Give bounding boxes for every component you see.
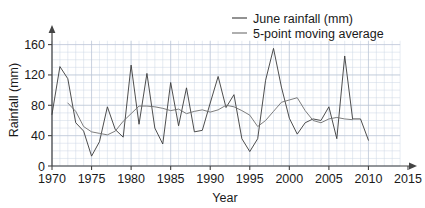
y-tick-label: 160 bbox=[24, 38, 45, 52]
x-tick-label: 2015 bbox=[394, 172, 422, 186]
legend-label: June rainfall (mm) bbox=[253, 12, 353, 26]
x-tick-label: 2010 bbox=[355, 172, 383, 186]
x-axis-title: Year bbox=[212, 191, 237, 205]
y-axis-tick-labels: 04080120160 bbox=[24, 38, 45, 173]
x-axis-arrowhead bbox=[409, 163, 417, 170]
legend-label: 5-point moving average bbox=[253, 27, 384, 41]
x-tick-label: 2000 bbox=[275, 172, 303, 186]
x-tick-label: 1985 bbox=[157, 172, 185, 186]
x-tick-label: 1975 bbox=[78, 172, 106, 186]
y-axis-title: Rainfall (mm) bbox=[7, 63, 21, 137]
x-tick-label: 1980 bbox=[117, 172, 145, 186]
minor-gridlines bbox=[52, 41, 400, 166]
x-tick-label: 1970 bbox=[38, 172, 66, 186]
x-axis-tick-labels: 1970197519801985199019952000200520102015 bbox=[38, 172, 422, 186]
axis-tick-marks bbox=[48, 45, 408, 170]
x-tick-label: 1990 bbox=[196, 172, 224, 186]
x-tick-label: 2005 bbox=[315, 172, 343, 186]
y-tick-label: 80 bbox=[31, 99, 45, 113]
rainfall-chart: 04080120160 1970197519801985199019952000… bbox=[0, 0, 425, 208]
chart-canvas: 04080120160 1970197519801985199019952000… bbox=[0, 0, 425, 208]
y-axis-arrowhead bbox=[49, 25, 56, 33]
chart-legend: June rainfall (mm)5-point moving average bbox=[232, 12, 384, 41]
x-tick-label: 1995 bbox=[236, 172, 264, 186]
y-tick-label: 120 bbox=[24, 68, 45, 82]
y-tick-label: 40 bbox=[31, 129, 45, 143]
